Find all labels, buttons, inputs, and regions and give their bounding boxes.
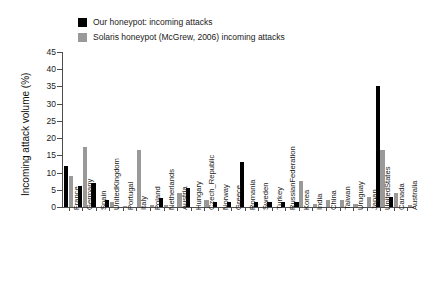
y-tick-label: 5: [36, 185, 56, 195]
y-tick-label: 20: [36, 133, 56, 143]
y-tick-mark: [57, 190, 62, 191]
y-axis-tick-labels: 051015202530354045: [36, 52, 56, 208]
x-tick-label: Romania: [248, 180, 257, 210]
x-tick-label: UnitedStates: [383, 167, 392, 210]
legend-item-solaris-honeypot: Solaris honeypot (McGrew, 2006) incoming…: [78, 31, 285, 44]
x-tick-label: Germany: [85, 179, 94, 210]
y-tick-label: 15: [36, 150, 56, 160]
legend-label-our-honeypot: Our honeypot: incoming attacks: [93, 18, 213, 27]
legend-swatch-solaris-honeypot: [78, 33, 87, 42]
x-tick-label: India: [315, 194, 324, 210]
x-tick-label: Australia: [410, 180, 419, 210]
x-tick-label: Greece: [234, 185, 243, 210]
bar: [64, 166, 68, 207]
y-tick-label: 25: [36, 116, 56, 126]
x-axis-tick-labels: FranceGermanySpainUnitedKingdomPortugalI…: [62, 210, 414, 296]
x-tick-label: Japan: [370, 189, 379, 210]
y-tick-label: 10: [36, 168, 56, 178]
y-tick-mark: [57, 207, 62, 208]
legend-label-solaris-honeypot: Solaris honeypot (McGrew, 2006) incoming…: [93, 33, 285, 42]
chart-legend: Our honeypot: incoming attacks Solaris h…: [78, 16, 285, 46]
y-axis-line: [62, 52, 63, 208]
x-tick-label: Uruguay: [356, 181, 365, 210]
x-tick-label: Poland: [153, 186, 162, 210]
x-tick-label: Canada: [397, 183, 406, 210]
y-tick-mark: [57, 121, 62, 122]
x-tick-label: Norway: [221, 184, 230, 210]
y-tick-mark: [57, 104, 62, 105]
x-tick-label: Turkey: [275, 187, 284, 210]
x-tick-label: France: [72, 186, 81, 210]
legend-swatch-our-honeypot: [78, 18, 87, 27]
y-tick-mark: [57, 155, 62, 156]
legend-item-our-honeypot: Our honeypot: incoming attacks: [78, 16, 285, 29]
x-tick-label: RussianFederation: [288, 146, 297, 210]
x-tick-label: Spain: [99, 191, 108, 210]
y-tick-mark: [57, 52, 62, 53]
x-tick-label: Taiwan: [343, 186, 352, 210]
x-tick-label: Czech_Republic: [207, 155, 216, 210]
y-tick-label: 40: [36, 64, 56, 74]
y-axis-title: Incoming attack volume (%): [20, 73, 31, 196]
x-tick-label: UnitedKingdom: [112, 158, 121, 210]
x-tick-label: Hungary: [194, 181, 203, 210]
y-tick-label: 0: [36, 202, 56, 212]
y-tick-mark: [57, 173, 62, 174]
x-tick-label: Netherlands: [167, 169, 176, 210]
y-tick-label: 45: [36, 47, 56, 57]
y-tick-mark: [57, 86, 62, 87]
x-tick-label: Sweden: [261, 183, 270, 210]
y-tick-mark: [57, 69, 62, 70]
y-tick-mark: [57, 138, 62, 139]
bar-chart: Our honeypot: incoming attacks Solaris h…: [0, 0, 434, 300]
x-tick-label: Portugal: [126, 182, 135, 210]
x-tick-label: Italy: [139, 196, 148, 210]
y-tick-label: 30: [36, 99, 56, 109]
x-tick-label: Korea: [302, 190, 311, 210]
x-tick-label: Austria: [180, 186, 189, 210]
y-tick-label: 35: [36, 81, 56, 91]
x-tick-label: China: [329, 190, 338, 210]
